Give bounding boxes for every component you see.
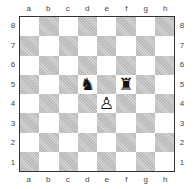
square-f4[interactable] <box>116 94 135 113</box>
rank-label-1-right: 1 <box>176 153 188 173</box>
square-f7[interactable] <box>116 36 135 55</box>
file-label-e-bottom: e <box>97 175 117 184</box>
square-g6[interactable] <box>136 56 155 75</box>
square-h8[interactable] <box>155 17 174 36</box>
file-label-h-top: h <box>156 4 176 13</box>
square-c7[interactable] <box>59 36 78 55</box>
file-label-f-top: f <box>117 4 137 13</box>
file-label-g-top: g <box>136 4 156 13</box>
file-label-d-bottom: d <box>78 175 98 184</box>
rank-label-8-left: 8 <box>7 16 19 36</box>
file-label-a-top: a <box>19 4 39 13</box>
square-f1[interactable] <box>116 152 135 171</box>
file-label-c-bottom: c <box>58 175 78 184</box>
rank-label-5-left: 5 <box>7 75 19 95</box>
square-h2[interactable] <box>155 133 174 152</box>
square-c2[interactable] <box>59 133 78 152</box>
square-d7[interactable] <box>78 36 97 55</box>
square-h5[interactable] <box>155 75 174 94</box>
black-rook-icon[interactable]: ♜ <box>116 75 135 94</box>
square-a5[interactable] <box>20 75 39 94</box>
file-label-c-top: c <box>58 4 78 13</box>
square-e6[interactable] <box>97 56 116 75</box>
square-c8[interactable] <box>59 17 78 36</box>
square-c3[interactable] <box>59 113 78 132</box>
square-d1[interactable] <box>78 152 97 171</box>
square-b4[interactable] <box>39 94 58 113</box>
file-label-e-top: e <box>97 4 117 13</box>
square-d4[interactable] <box>78 94 97 113</box>
rank-label-5-right: 5 <box>176 75 188 95</box>
rank-label-4-left: 4 <box>7 94 19 114</box>
file-label-b-bottom: b <box>39 175 59 184</box>
chessboard: ♞♜♙ <box>19 16 175 172</box>
square-a4[interactable] <box>20 94 39 113</box>
square-h1[interactable] <box>155 152 174 171</box>
rank-label-6-left: 6 <box>7 55 19 75</box>
square-f3[interactable] <box>116 113 135 132</box>
square-d8[interactable] <box>78 17 97 36</box>
file-label-a-bottom: a <box>19 175 39 184</box>
square-a6[interactable] <box>20 56 39 75</box>
rank-label-6-right: 6 <box>176 55 188 75</box>
square-g1[interactable] <box>136 152 155 171</box>
file-label-g-bottom: g <box>136 175 156 184</box>
square-g8[interactable] <box>136 17 155 36</box>
square-h7[interactable] <box>155 36 174 55</box>
square-e8[interactable] <box>97 17 116 36</box>
square-d6[interactable] <box>78 56 97 75</box>
square-h4[interactable] <box>155 94 174 113</box>
rank-label-3-left: 3 <box>7 114 19 134</box>
square-g3[interactable] <box>136 113 155 132</box>
square-h6[interactable] <box>155 56 174 75</box>
square-a3[interactable] <box>20 113 39 132</box>
square-d5[interactable]: ♞ <box>78 75 97 94</box>
square-g2[interactable] <box>136 133 155 152</box>
rank-label-2-left: 2 <box>7 133 19 153</box>
square-b8[interactable] <box>39 17 58 36</box>
square-c4[interactable] <box>59 94 78 113</box>
square-e1[interactable] <box>97 152 116 171</box>
white-pawn-icon[interactable]: ♙ <box>97 94 116 113</box>
square-b5[interactable] <box>39 75 58 94</box>
file-label-h-bottom: h <box>156 175 176 184</box>
square-e3[interactable] <box>97 113 116 132</box>
square-b2[interactable] <box>39 133 58 152</box>
square-b7[interactable] <box>39 36 58 55</box>
square-f5[interactable]: ♜ <box>116 75 135 94</box>
square-g5[interactable] <box>136 75 155 94</box>
rank-label-1-left: 1 <box>7 153 19 173</box>
square-e5[interactable] <box>97 75 116 94</box>
square-d2[interactable] <box>78 133 97 152</box>
square-e2[interactable] <box>97 133 116 152</box>
rank-label-3-right: 3 <box>176 114 188 134</box>
rank-label-7-left: 7 <box>7 36 19 56</box>
square-g4[interactable] <box>136 94 155 113</box>
square-h3[interactable] <box>155 113 174 132</box>
square-e7[interactable] <box>97 36 116 55</box>
square-e4[interactable]: ♙ <box>97 94 116 113</box>
square-b6[interactable] <box>39 56 58 75</box>
file-label-d-top: d <box>78 4 98 13</box>
square-b1[interactable] <box>39 152 58 171</box>
square-a1[interactable] <box>20 152 39 171</box>
square-a8[interactable] <box>20 17 39 36</box>
file-label-f-bottom: f <box>117 175 137 184</box>
rank-label-2-right: 2 <box>176 133 188 153</box>
square-f2[interactable] <box>116 133 135 152</box>
square-f8[interactable] <box>116 17 135 36</box>
square-g7[interactable] <box>136 36 155 55</box>
square-b3[interactable] <box>39 113 58 132</box>
rank-label-7-right: 7 <box>176 36 188 56</box>
square-a7[interactable] <box>20 36 39 55</box>
square-c1[interactable] <box>59 152 78 171</box>
square-c6[interactable] <box>59 56 78 75</box>
rank-label-8-right: 8 <box>176 16 188 36</box>
rank-label-4-right: 4 <box>176 94 188 114</box>
square-c5[interactable] <box>59 75 78 94</box>
file-label-b-top: b <box>39 4 59 13</box>
square-a2[interactable] <box>20 133 39 152</box>
square-d3[interactable] <box>78 113 97 132</box>
black-knight-icon[interactable]: ♞ <box>78 75 97 94</box>
square-f6[interactable] <box>116 56 135 75</box>
